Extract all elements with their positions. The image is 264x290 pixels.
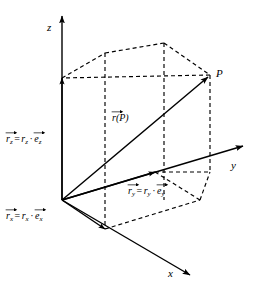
box-edge-top-right <box>164 43 210 75</box>
ey-unit-with-arrow: ey <box>157 186 165 198</box>
ry-lhs-subscript: y <box>132 190 135 198</box>
position-vector-line <box>62 77 208 200</box>
ez-unit-with-arrow: ez <box>34 134 41 146</box>
rz-equals-sign: = <box>13 134 22 144</box>
box-edge-top-left <box>62 53 105 78</box>
rz-lhs-with-arrow: rz <box>6 134 13 146</box>
ry-equals-sign: = <box>135 186 144 196</box>
ey-unit-subscript: y <box>161 190 164 198</box>
z-axis-label: z <box>47 22 51 33</box>
r-with-arrow: r <box>112 113 116 123</box>
rx-vector <box>62 200 105 229</box>
position-vector-label: r(P) <box>112 113 129 123</box>
ex-unit-subscript: x <box>39 215 42 223</box>
position-vector-argument: (P) <box>116 112 129 123</box>
x-axis-line <box>62 200 190 275</box>
box-edge-bot-right <box>200 172 210 200</box>
rx-lhs-subscript: x <box>10 215 13 223</box>
rz-lhs-subscript: z <box>10 138 13 146</box>
rx-equals-sign: = <box>13 211 22 221</box>
box-edge-bot-back <box>105 200 200 229</box>
ez-unit-subscript: z <box>39 138 42 146</box>
ry-lhs-with-arrow: ry <box>128 186 135 198</box>
x-axis-label: x <box>168 268 173 279</box>
position-vector-symbol: r <box>112 112 116 123</box>
ex-unit-with-arrow: ex <box>35 211 43 223</box>
point-p-label: P <box>216 68 223 79</box>
rx-lhs-with-arrow: rx <box>6 211 13 223</box>
rx-component-label: rx=rx·ex <box>6 211 43 223</box>
y-axis-label: y <box>231 160 236 171</box>
ry-component-label: ry=ry·ey <box>128 186 165 198</box>
axis-group <box>62 16 243 275</box>
box-edge-top-back <box>105 43 164 53</box>
reference-box <box>62 43 210 229</box>
rz-component-label: rz=rz·ez <box>6 134 41 146</box>
component-vector-group <box>62 78 155 229</box>
vector-diagram-figure: z y x P r(P) rz=rz·ez ry=ry·ey rx=rx·ex <box>0 0 264 290</box>
box-edge-top-front <box>62 75 210 78</box>
